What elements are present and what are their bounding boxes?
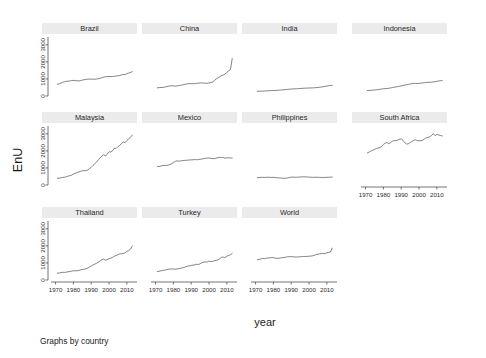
panel-thailand: Thailand <box>42 207 137 273</box>
panel-title: India <box>281 24 298 33</box>
series-line <box>57 246 132 273</box>
y-tick-label: 2000 <box>39 54 46 68</box>
panel-title: Thailand <box>75 208 103 217</box>
y-tick-label: 1000 <box>39 161 46 175</box>
x-tick-label: 2010 <box>120 286 134 293</box>
panel-indonesia: Indonesia <box>352 23 447 91</box>
panel-title: Brazil <box>80 24 99 33</box>
x-tick-label: 1990 <box>284 286 298 293</box>
panel-title: South Africa <box>380 113 421 122</box>
x-tick-label: 2010 <box>320 286 334 293</box>
series-line <box>257 177 332 179</box>
y-tick-label: 2000 <box>39 238 46 252</box>
x-tick-label: 1980 <box>267 286 281 293</box>
figure-note: Graphs by country <box>40 336 109 346</box>
panel-mexico: Mexico <box>142 112 237 167</box>
panel-turkey: Turkey <box>142 207 237 271</box>
x-tick-label: 1990 <box>84 286 98 293</box>
y-tick-label: 3000 <box>39 221 46 235</box>
panel-title: Malaysia <box>75 113 105 122</box>
x-tick-label: 2000 <box>302 286 316 293</box>
x-tick-label: 2010 <box>430 191 444 198</box>
x-tick-label: 1970 <box>149 286 163 293</box>
x-tick-label: 1990 <box>394 191 408 198</box>
y-tick-label: 3000 <box>39 37 46 51</box>
y-tick-label: 1000 <box>39 72 46 86</box>
y-axis-title: EnU <box>11 148 25 172</box>
series-line <box>57 72 132 85</box>
y-axis-row-1: 0100020003000 <box>39 37 48 98</box>
y-tick-label: 2000 <box>39 143 46 157</box>
series-line <box>257 85 332 91</box>
x-axis-south-africa: 19701980199020002010 <box>359 187 447 198</box>
x-tick-label: 1970 <box>249 286 263 293</box>
y-tick-label: 0 <box>39 183 46 187</box>
figure-canvas: 010002000300001000200030000100020003000B… <box>0 0 486 358</box>
y-tick-label: 1000 <box>39 256 46 270</box>
panel-malaysia: Malaysia <box>42 112 137 178</box>
y-axis-row-2: 0100020003000 <box>39 126 48 187</box>
panel-title: World <box>280 208 299 217</box>
x-tick-label: 1980 <box>67 286 81 293</box>
panel-title: Philippines <box>272 113 308 122</box>
panel-south-africa: South Africa <box>352 112 447 153</box>
x-tick-label: 1990 <box>184 286 198 293</box>
x-tick-label: 1970 <box>359 191 373 198</box>
series-line <box>367 80 442 90</box>
panel-title: China <box>180 24 200 33</box>
panel-title: Mexico <box>178 113 201 122</box>
x-axis-row3-col2: 19701980199020002010 <box>149 282 237 293</box>
x-tick-label: 2000 <box>412 191 426 198</box>
x-axis-title: year <box>254 316 276 328</box>
small-multiples-chart: 010002000300001000200030000100020003000B… <box>0 0 486 358</box>
y-tick-label: 0 <box>39 278 46 282</box>
series-line <box>57 135 132 178</box>
series-line <box>367 134 442 153</box>
series-line <box>157 157 232 166</box>
y-tick-label: 0 <box>39 94 46 98</box>
x-tick-label: 1980 <box>377 191 391 198</box>
panel-world: World <box>242 207 337 260</box>
panel-title: Turkey <box>178 208 201 217</box>
panel-philippines: Philippines <box>242 112 337 178</box>
panel-china: China <box>142 23 237 88</box>
panel-title: Indonesia <box>383 24 416 33</box>
x-tick-label: 1970 <box>49 286 63 293</box>
x-tick-label: 2000 <box>202 286 216 293</box>
x-axis-row3-col1: 19701980199020002010 <box>49 282 137 293</box>
x-axis-row3-col3: 19701980199020002010 <box>249 282 337 293</box>
x-tick-label: 2000 <box>102 286 116 293</box>
series-line <box>257 248 332 260</box>
panel-india: India <box>242 23 337 91</box>
x-tick-label: 2010 <box>220 286 234 293</box>
series-line <box>157 58 232 87</box>
y-axis-row-3: 0100020003000 <box>39 221 48 282</box>
x-tick-label: 1980 <box>167 286 181 293</box>
series-line <box>157 253 232 271</box>
y-tick-label: 3000 <box>39 126 46 140</box>
panel-brazil: Brazil <box>42 23 137 84</box>
